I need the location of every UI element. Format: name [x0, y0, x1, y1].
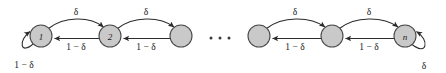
ellipsis-dot-1 — [210, 37, 213, 40]
state-transition-diagram: 1 − δ δ 1 − δ δ 1 − δ — [0, 0, 446, 73]
edge-state-5-to-state-n-label: δ — [367, 7, 372, 17]
edge-self-loop-state-1-label: 1 − δ — [14, 60, 34, 70]
edge-state-2-to-state-1-label: 1 − δ — [66, 42, 86, 52]
edge-state-4-to-state-5: δ — [267, 7, 326, 29]
edge-state-1-to-state-2-label: δ — [74, 7, 79, 17]
node-state-1-label: 1 — [39, 32, 44, 42]
node-state-2-label: 2 — [108, 32, 113, 42]
edge-state-3-to-state-2: 1 − δ — [124, 39, 171, 53]
edge-state-5-to-state-n-path — [340, 19, 399, 29]
ellipsis-dot-3 — [228, 37, 231, 40]
node-state-5-circle[interactable] — [321, 25, 343, 47]
node-state-2[interactable]: 2 — [99, 25, 121, 47]
node-state-4[interactable] — [248, 25, 270, 47]
edge-state-n-to-state-5-label: 1 − δ — [359, 42, 379, 52]
edge-state-1-to-state-2: δ — [49, 7, 104, 29]
edge-state-3-to-state-2-label: 1 − δ — [136, 42, 156, 52]
node-state-n-label: n — [403, 32, 408, 42]
node-state-3[interactable] — [170, 25, 192, 47]
node-state-1[interactable]: 1 — [30, 25, 52, 47]
edge-state-4-to-state-5-label: δ — [293, 7, 298, 17]
edge-state-2-to-state-3: δ — [118, 7, 175, 29]
edge-state-5-to-state-n: δ — [340, 7, 399, 29]
edge-state-2-to-state-3-label: δ — [144, 7, 149, 17]
diagram-canvas: 1 − δ δ 1 − δ δ 1 − δ — [0, 0, 446, 73]
edge-state-5-to-state-4-label: 1 − δ — [285, 42, 305, 52]
edge-state-2-to-state-1: 1 − δ — [55, 39, 100, 53]
edge-state-n-to-state-5: 1 − δ — [346, 39, 395, 53]
node-state-3-circle[interactable] — [170, 25, 192, 47]
ellipsis-dot-2 — [219, 37, 222, 40]
node-state-n[interactable]: n — [394, 25, 416, 47]
ellipsis-separator — [210, 37, 231, 40]
node-state-4-circle[interactable] — [248, 25, 270, 47]
edge-state-5-to-state-4: 1 − δ — [273, 39, 322, 53]
node-state-5[interactable] — [321, 25, 343, 47]
edge-state-4-to-state-5-path — [267, 19, 326, 29]
edge-state-2-to-state-3-path — [118, 19, 175, 29]
edge-state-1-to-state-2-path — [49, 19, 104, 29]
edge-self-loop-state-n-label: δ — [422, 61, 427, 71]
